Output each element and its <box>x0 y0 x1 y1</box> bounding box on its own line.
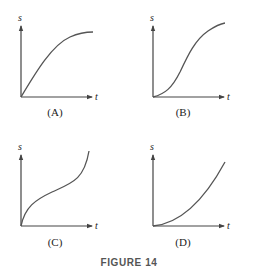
panel-label-c: (C) <box>48 236 63 249</box>
panel-a: s t (A) <box>18 12 98 119</box>
panel-c: s t (C) <box>18 141 98 249</box>
panel-label-a: (A) <box>47 106 63 119</box>
t-label: t <box>95 220 98 231</box>
t-label: t <box>227 220 230 231</box>
figure-14: s t (A) s t (B) s t (C) s t (D) FIGURE 1… <box>0 0 257 278</box>
curve-b <box>153 23 225 97</box>
panel-b: s t (B) <box>150 12 230 119</box>
curve-a <box>21 32 93 97</box>
panel-label-d: (D) <box>175 236 191 249</box>
s-label: s <box>18 12 22 23</box>
s-label: s <box>150 141 154 152</box>
s-label: s <box>18 141 22 152</box>
curve-c <box>21 151 89 226</box>
figure-caption: FIGURE 14 <box>100 257 157 268</box>
s-label: s <box>150 12 154 23</box>
t-label: t <box>227 91 230 102</box>
panel-label-b: (B) <box>176 106 191 119</box>
t-label: t <box>95 91 98 102</box>
panel-d: s t (D) <box>150 141 230 249</box>
curve-d <box>153 162 225 226</box>
